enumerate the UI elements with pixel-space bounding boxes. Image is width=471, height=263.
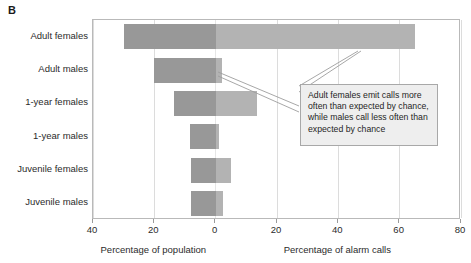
panel-label: B bbox=[8, 4, 16, 16]
x-axis-tick bbox=[153, 219, 154, 223]
y-axis-labels: Adult femalesAdult males1-year females1-… bbox=[0, 19, 88, 219]
x-axis-tick-label: 40 bbox=[87, 224, 98, 235]
y-axis-label: 1-year females bbox=[0, 96, 88, 107]
x-axis-tick-label: 80 bbox=[455, 224, 466, 235]
x-axis-tick-label: 60 bbox=[393, 224, 404, 235]
bar-group bbox=[93, 24, 459, 49]
gridline bbox=[215, 20, 216, 218]
x-axis-tick bbox=[460, 219, 461, 223]
x-axis-tick bbox=[398, 219, 399, 223]
bar-population bbox=[191, 158, 216, 183]
x-axis-title-left: Percentage of population bbox=[101, 244, 207, 255]
y-axis-label: Adult females bbox=[0, 30, 88, 41]
x-axis-tick bbox=[337, 219, 338, 223]
x-axis-tick-label: 0 bbox=[212, 224, 217, 235]
x-axis-tick bbox=[276, 219, 277, 223]
bar-population bbox=[191, 191, 216, 216]
gridline bbox=[154, 20, 155, 218]
y-axis-label: Juvenile females bbox=[0, 163, 88, 174]
bar-alarm-calls bbox=[216, 158, 231, 183]
bar-population bbox=[154, 58, 215, 83]
bar-alarm-calls bbox=[216, 24, 415, 49]
bar-group bbox=[93, 191, 459, 216]
bar-alarm-calls bbox=[216, 124, 219, 149]
x-axis-title-right: Percentage of alarm calls bbox=[284, 244, 391, 255]
bar-alarm-calls bbox=[216, 191, 224, 216]
gridline bbox=[93, 20, 94, 218]
bar-population bbox=[174, 91, 215, 116]
x-axis-tick bbox=[214, 219, 215, 223]
x-axis-tick-label: 20 bbox=[271, 224, 282, 235]
x-axis-tick-label: 20 bbox=[148, 224, 159, 235]
bar-alarm-calls bbox=[216, 91, 257, 116]
gridline bbox=[461, 20, 462, 218]
bar-alarm-calls bbox=[216, 58, 222, 83]
x-axis-tick bbox=[92, 219, 93, 223]
bar-group bbox=[93, 58, 459, 83]
bar-population bbox=[124, 24, 216, 49]
y-axis-label: 1-year males bbox=[0, 130, 88, 141]
y-axis-label: Juvenile males bbox=[0, 196, 88, 207]
gridline bbox=[277, 20, 278, 218]
y-axis-label: Adult males bbox=[0, 63, 88, 74]
x-axis-tick-label: 40 bbox=[332, 224, 343, 235]
bar-population bbox=[190, 124, 216, 149]
callout-annotation: Adult females emit calls more often than… bbox=[300, 84, 438, 146]
bar-group bbox=[93, 158, 459, 183]
